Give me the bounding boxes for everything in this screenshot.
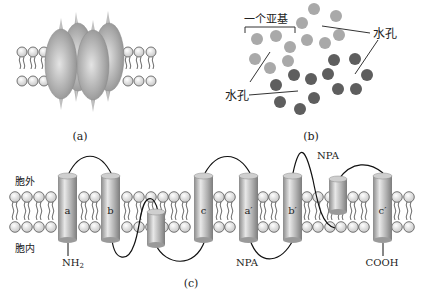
panel-c-caption: (c) (184, 277, 199, 290)
c-terminus-label: COOH (366, 257, 399, 268)
intracellular-label: 胞内 (15, 242, 35, 254)
npa-bottom-label: NPA (236, 257, 259, 268)
npa-top-label: NPA (317, 150, 340, 161)
panel-b: 一个亚基 (225, 3, 397, 143)
helix-b: b (101, 173, 120, 243)
helix-a-label: a (65, 205, 71, 216)
helix-b-prime: b′ (283, 173, 302, 243)
aquaporin-tetramer (45, 11, 124, 112)
half-helix-lower (147, 209, 165, 248)
pore-label-left: 水孔 (225, 89, 249, 103)
figure-canvas: (a) 一个亚基 (0, 0, 422, 294)
helix-a-prime: a′ (239, 173, 258, 243)
helix-b-label: b (107, 205, 113, 216)
pore-label-right: 水孔 (373, 27, 397, 41)
subunit-bracket (245, 27, 295, 33)
half-helix-upper (329, 176, 347, 215)
helix-b-prime-label: b′ (288, 205, 297, 216)
helix-c-prime: c′ (373, 173, 392, 243)
panel-b-caption: (b) (303, 130, 319, 143)
helix-c-prime-label: c′ (379, 205, 388, 216)
panel-a: (a) (17, 11, 156, 143)
panel-a-caption: (a) (72, 130, 87, 143)
helix-c-label: c (201, 205, 207, 216)
helix-c: c (194, 173, 213, 243)
n-terminus-label: NH2 (62, 257, 84, 270)
extracellular-label: 胞外 (15, 176, 35, 187)
helix-a: a (58, 173, 77, 243)
subunit-label: 一个亚基 (244, 13, 288, 26)
panel-c: a b c a′ b′ (10, 150, 415, 290)
helix-a-prime-label: a′ (244, 205, 253, 216)
